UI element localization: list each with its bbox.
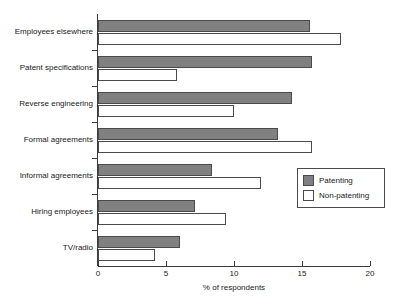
bar-patenting bbox=[98, 92, 292, 104]
bar-non-patenting bbox=[98, 105, 234, 117]
y-axis-tick bbox=[92, 158, 98, 159]
x-axis-tick-label: 5 bbox=[151, 269, 181, 279]
bar-non-patenting bbox=[98, 213, 226, 225]
category-label: Informal agreements bbox=[5, 171, 93, 181]
legend: Patenting Non-patenting bbox=[297, 168, 385, 208]
plot-area bbox=[98, 14, 370, 266]
bar-non-patenting bbox=[98, 69, 177, 81]
x-axis-tick-label: 20 bbox=[355, 269, 385, 279]
y-axis-tick bbox=[92, 194, 98, 195]
category-label: Reverse engineering bbox=[5, 99, 93, 109]
category-label: Patent specifications bbox=[5, 63, 93, 73]
y-axis-tick bbox=[92, 86, 98, 87]
bar-chart: Employees elsewherePatent specifications… bbox=[0, 0, 398, 306]
legend-item-patenting: Patenting bbox=[303, 173, 379, 188]
legend-item-non-patenting: Non-patenting bbox=[303, 188, 379, 203]
x-axis-tick bbox=[234, 261, 235, 266]
y-axis-tick bbox=[92, 230, 98, 231]
bar-patenting bbox=[98, 20, 310, 32]
bar-patenting bbox=[98, 200, 195, 212]
bar-patenting bbox=[98, 236, 180, 248]
bar-patenting bbox=[98, 56, 312, 68]
x-axis-tick bbox=[166, 261, 167, 266]
bar-non-patenting bbox=[98, 249, 155, 261]
x-axis-tick-label: 15 bbox=[287, 269, 317, 279]
x-axis-tick bbox=[98, 261, 99, 266]
bar-non-patenting bbox=[98, 177, 261, 189]
x-axis-line bbox=[98, 266, 370, 267]
x-axis-tick-label: 10 bbox=[219, 269, 249, 279]
category-label: Employees elsewhere bbox=[5, 27, 93, 37]
y-axis-tick bbox=[92, 122, 98, 123]
bar-patenting bbox=[98, 128, 278, 140]
category-label: Hiring employees bbox=[5, 207, 93, 217]
bar-patenting bbox=[98, 164, 212, 176]
category-axis-labels: Employees elsewherePatent specifications… bbox=[0, 0, 93, 306]
x-axis-tick bbox=[302, 261, 303, 266]
legend-swatch-non-patenting-icon bbox=[303, 190, 314, 201]
category-label: TV/radio bbox=[5, 243, 93, 253]
bar-non-patenting bbox=[98, 33, 341, 45]
x-axis-title: % of respondents bbox=[98, 283, 370, 293]
legend-swatch-patenting-icon bbox=[303, 175, 314, 186]
legend-label-patenting: Patenting bbox=[319, 176, 353, 186]
legend-label-non-patenting: Non-patenting bbox=[319, 191, 369, 201]
x-axis-tick bbox=[370, 261, 371, 266]
x-axis-tick-label: 0 bbox=[83, 269, 113, 279]
category-label: Formal agreements bbox=[5, 135, 93, 145]
y-axis-tick bbox=[92, 50, 98, 51]
bar-non-patenting bbox=[98, 141, 312, 153]
